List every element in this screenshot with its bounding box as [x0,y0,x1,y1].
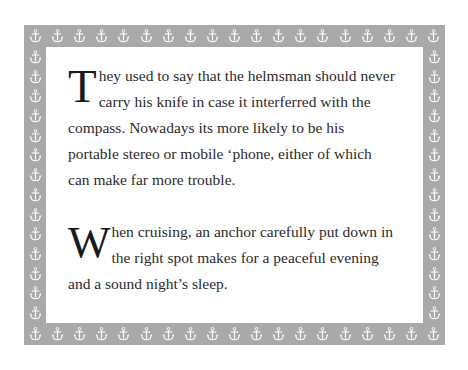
paragraph-one-text: hey used to say that the helmsman should… [68,63,397,193]
page: They used to say that the helmsman shoul… [0,0,468,370]
paragraph-one: They used to say that the helmsman shoul… [68,63,397,193]
paragraph-two-text: hen cruising, an anchor carefully put do… [68,219,397,297]
dropcap-w: W [68,219,111,262]
paragraph-two: When cruising, an anchor carefully put d… [68,219,397,297]
text-panel: They used to say that the helmsman shoul… [46,47,423,323]
dropcap-t: T [68,63,99,106]
